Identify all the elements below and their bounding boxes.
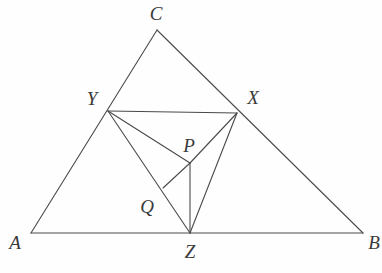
- point-label-x: X: [247, 88, 259, 107]
- geometry-figure: CYXPQAZB: [0, 0, 382, 273]
- segment-PQ: [163, 163, 190, 188]
- point-label-y: Y: [87, 89, 98, 108]
- point-label-b: B: [368, 233, 380, 252]
- point-label-a: A: [9, 233, 21, 252]
- segment-XP: [190, 113, 237, 163]
- segment-AC: [31, 30, 157, 233]
- segment-XZ: [190, 113, 237, 233]
- point-label-c: C: [150, 4, 163, 23]
- point-label-q: Q: [140, 197, 154, 216]
- point-label-p: P: [183, 136, 195, 155]
- segment-CB: [157, 30, 363, 233]
- segment-YP: [108, 111, 190, 163]
- segment-YX: [108, 111, 237, 113]
- segment-layer: [31, 30, 363, 233]
- point-label-z: Z: [185, 242, 196, 261]
